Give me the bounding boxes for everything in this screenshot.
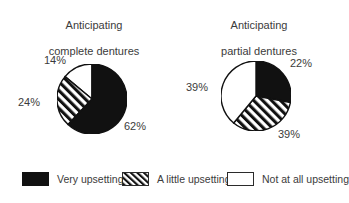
pie-label-complete-not-at-all: 14% — [44, 54, 66, 66]
diagonal-hatch-swatch-icon — [122, 172, 149, 186]
legend-label-not-at-all-upsetting: Not at all upsetting — [262, 173, 349, 185]
legend-item-not-at-all-upsetting: Not at all upsetting — [227, 168, 349, 190]
legend-label-very-upsetting: Very upsetting — [57, 173, 124, 185]
pie-chart-complete-dentures — [57, 64, 127, 134]
pie-label-partial-a-little: 39% — [278, 128, 300, 140]
pie-chart-partial-dentures — [221, 61, 291, 131]
pie-label-partial-very: 22% — [290, 57, 312, 69]
chart-title-line1: Anticipating — [195, 19, 323, 32]
legend-item-a-little-upsetting: A little upsetting — [122, 168, 231, 190]
legend: Very upsetting A little upsetting Not — [0, 168, 346, 192]
pie-svg-partial-dentures — [221, 61, 291, 131]
legend-label-a-little-upsetting: A little upsetting — [157, 173, 231, 185]
chart-title-line1: Anticipating — [30, 19, 158, 32]
outlined-white-swatch-icon — [227, 172, 254, 186]
solid-black-swatch-icon — [22, 172, 49, 186]
pie-label-complete-a-little: 24% — [18, 96, 40, 108]
pie-label-partial-not-at-all: 39% — [186, 81, 208, 93]
legend-item-very-upsetting: Very upsetting — [22, 168, 124, 190]
pie-label-complete-very: 62% — [124, 120, 146, 132]
pie-svg-complete-dentures — [57, 64, 127, 134]
